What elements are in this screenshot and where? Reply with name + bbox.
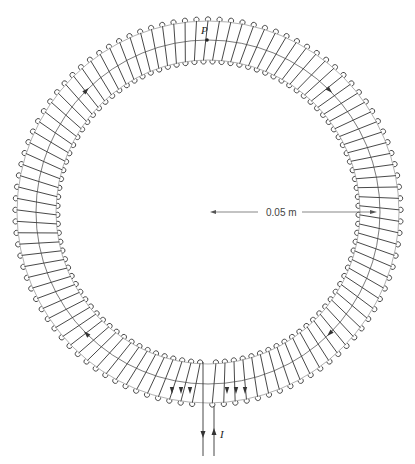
current-label: I	[219, 428, 225, 440]
point-P-label: P	[200, 24, 208, 36]
bottom-winding-arrow-icon	[179, 387, 183, 394]
current-direction-arrows	[82, 86, 333, 394]
toroid-diagram: P 0.05 m I	[0, 0, 415, 464]
lead-wires: I	[201, 362, 226, 456]
bottom-winding-arrow-icon	[243, 387, 247, 394]
lead-down-arrow-icon	[201, 431, 206, 438]
point-P-marker: P	[200, 24, 209, 42]
lead-up-arrow-icon	[212, 428, 217, 435]
dimension-label: 0.05 m	[266, 207, 297, 218]
dimension-arrow-right-icon	[370, 210, 377, 214]
point-P-dot	[205, 38, 209, 42]
radius-dimension: 0.05 m	[210, 207, 377, 218]
bottom-winding-arrow-icon	[225, 387, 229, 394]
bottom-winding-arrow-icon	[188, 387, 192, 394]
dimension-arrow-left-icon	[210, 210, 216, 214]
bottom-winding-arrow-icon	[170, 387, 174, 394]
